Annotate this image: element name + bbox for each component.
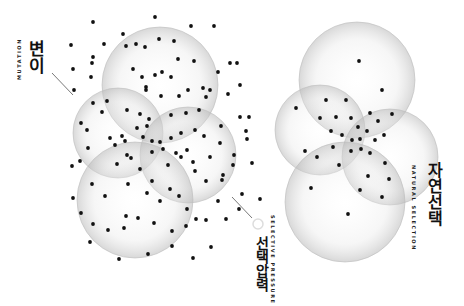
dot	[208, 88, 212, 92]
dot	[140, 75, 144, 79]
dot	[152, 221, 156, 225]
dot	[169, 136, 173, 140]
dot	[150, 179, 154, 183]
dot	[247, 115, 251, 119]
dot	[134, 42, 138, 46]
dot	[204, 95, 208, 99]
natural-selection-label-en: NATURAL SELECTION	[411, 165, 417, 251]
dot	[235, 61, 239, 65]
dot	[294, 106, 298, 110]
mutation-label-ko: 변이	[25, 40, 45, 74]
dot	[365, 129, 369, 133]
dot	[122, 226, 126, 230]
dot	[193, 128, 197, 132]
dot	[91, 20, 95, 24]
dot	[193, 169, 197, 173]
dot	[185, 207, 189, 211]
dot	[78, 159, 82, 163]
dot	[189, 24, 193, 28]
dot	[309, 186, 313, 190]
dot	[231, 163, 235, 167]
dot	[368, 151, 372, 155]
dot	[204, 179, 208, 183]
dot	[358, 137, 362, 141]
dot	[72, 88, 76, 92]
dot	[179, 155, 183, 159]
dot	[194, 217, 198, 221]
dot	[136, 216, 140, 220]
dot	[90, 182, 94, 186]
dot	[356, 125, 360, 129]
dot	[131, 67, 135, 71]
dot	[79, 121, 83, 125]
dot	[376, 119, 380, 123]
dot	[212, 24, 216, 28]
dot	[184, 111, 188, 115]
dot	[218, 141, 222, 145]
dot	[125, 153, 129, 157]
selective-pressure-marker	[253, 219, 263, 229]
dot	[172, 39, 176, 43]
dot	[145, 124, 149, 128]
dot	[141, 135, 145, 139]
dot	[380, 195, 384, 199]
dot	[88, 240, 92, 244]
dot	[115, 162, 119, 166]
dot	[126, 182, 130, 186]
dot	[204, 218, 208, 222]
dot	[105, 99, 109, 103]
dot	[144, 88, 148, 92]
dot	[129, 156, 133, 160]
dot	[166, 163, 170, 167]
dot	[324, 98, 328, 102]
dot	[91, 101, 95, 105]
dot	[197, 108, 201, 112]
dot	[113, 143, 117, 147]
dot	[90, 61, 94, 65]
dot	[124, 44, 128, 48]
diagram-canvas	[0, 0, 464, 306]
dot	[170, 244, 174, 248]
dot	[209, 245, 213, 249]
bubble	[77, 142, 193, 258]
dot	[216, 199, 220, 203]
dot	[150, 139, 154, 143]
dot	[169, 113, 173, 117]
dot	[135, 126, 139, 130]
dot	[244, 129, 248, 133]
dot	[145, 191, 149, 195]
dot	[85, 128, 89, 132]
dot	[340, 133, 344, 137]
dot	[158, 199, 162, 203]
dot	[121, 32, 125, 36]
dot	[358, 188, 362, 192]
dot	[346, 212, 350, 216]
dot	[387, 177, 391, 181]
dot	[158, 140, 162, 144]
dot	[368, 111, 372, 115]
dot	[238, 83, 242, 87]
dot	[303, 149, 307, 153]
mutation-label-en: MUTATION	[16, 38, 22, 80]
dot	[70, 164, 74, 168]
dot	[108, 136, 112, 140]
dot	[153, 73, 157, 77]
dot	[221, 173, 225, 177]
dot	[71, 67, 75, 71]
dot	[176, 57, 180, 61]
dot	[228, 61, 232, 65]
dot	[177, 94, 181, 98]
dot	[382, 133, 386, 137]
dot	[373, 138, 377, 142]
dot	[329, 129, 333, 133]
selective-pressure-label-ko: 선택압력	[249, 236, 269, 292]
dot	[315, 155, 319, 159]
dot	[232, 153, 236, 157]
dot	[86, 146, 90, 150]
dot	[168, 187, 172, 191]
dot	[138, 112, 142, 116]
dot	[143, 45, 147, 49]
dot	[250, 161, 254, 165]
dot	[79, 211, 83, 215]
dot	[357, 59, 361, 63]
